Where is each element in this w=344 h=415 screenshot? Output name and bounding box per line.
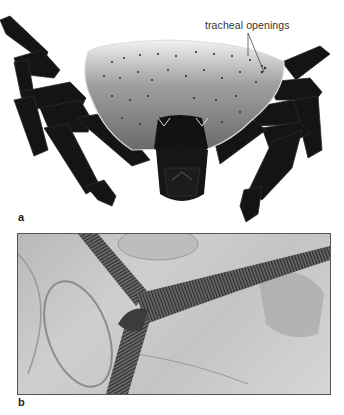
panel-label-b: b xyxy=(18,396,25,408)
annotation-tracheal-openings: tracheal openings xyxy=(205,19,290,31)
panel-label-a: a xyxy=(18,211,24,223)
figure-panel-b xyxy=(17,233,331,395)
figure-panel-a: tracheal openings a xyxy=(0,0,344,228)
sem-specimen-image xyxy=(0,0,344,228)
tracheal-micrograph-image xyxy=(18,234,330,394)
